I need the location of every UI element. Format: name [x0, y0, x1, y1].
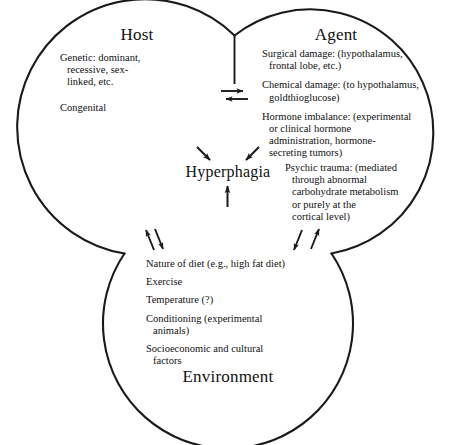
factor-item: Conditioning (experimentalanimals)	[146, 313, 356, 337]
agent-factor-list: Surgical damage: (hypothalamus,frontal l…	[262, 48, 462, 160]
factor-item: Genetic: dominant,recessive, sex-linked,…	[60, 52, 210, 89]
factor-item-line: Exercise	[146, 276, 356, 288]
factor-item-line: cortical level)	[285, 211, 464, 223]
arrow-environment-to-agent	[311, 229, 319, 249]
factor-item-line: linked, etc.	[60, 76, 210, 88]
factor-item: Nature of diet (e.g., high fat diet)	[146, 258, 356, 270]
venn-diagram: Host Agent Environment Hyperphagia Genet…	[0, 0, 464, 445]
factor-item-line: carbohydrate metabolism	[285, 186, 464, 198]
arrow-agent-to-hyperphagia	[246, 147, 259, 160]
factor-item: Congenital	[60, 102, 210, 114]
factor-item: Socioeconomic and culturalfactors	[146, 343, 356, 367]
factor-item-line: Surgical damage: (hypothalamus,	[262, 48, 462, 60]
factor-item-line: through abnormal	[285, 174, 464, 186]
factor-item: Surgical damage: (hypothalamus,frontal l…	[262, 48, 462, 72]
factor-item-line: recessive, sex-	[60, 64, 210, 76]
factor-item-line: Temperature (?)	[146, 294, 356, 306]
factor-item-line: animals)	[146, 325, 356, 337]
factor-item-line: Congenital	[60, 102, 210, 114]
factor-item-line: or clinical hormone	[262, 123, 462, 135]
environment-circle-title: Environment	[128, 368, 328, 385]
arrow-host-to-environment	[146, 230, 154, 250]
factor-item: Hormone imbalance: (experimentalor clini…	[262, 111, 462, 160]
factor-item-line: Genetic: dominant,	[60, 52, 210, 64]
factor-item-line: goldthioglucose)	[262, 92, 462, 104]
factor-item-line: Hormone imbalance: (experimental	[262, 111, 462, 123]
factor-item: Chemical damage: (to hypothalamus,goldth…	[262, 79, 462, 103]
factor-item: Temperature (?)	[146, 294, 356, 306]
environment-factor-list: Nature of diet (e.g., high fat diet)Exer…	[146, 258, 356, 367]
arrow-agent-to-environment	[294, 230, 302, 250]
host-factor-list: Genetic: dominant,recessive, sex-linked,…	[60, 52, 210, 114]
factor-item-line: Psychic trauma: (mediated	[285, 162, 464, 174]
factor-item-line: Socioeconomic and cultural	[146, 343, 356, 355]
factor-item: Exercise	[146, 276, 356, 288]
arrow-host-to-hyperphagia	[197, 147, 210, 160]
factor-item-line: administration, hormone-	[262, 135, 462, 147]
factor-item-line: factors	[146, 355, 356, 367]
agent-circle-title: Agent	[206, 26, 464, 43]
factor-item-line: or purely at the	[285, 199, 464, 211]
arrow-environment-to-host	[155, 229, 163, 249]
factor-item-line: Chemical damage: (to hypothalamus,	[262, 79, 462, 91]
factor-item-line: frontal lobe, etc.)	[262, 60, 462, 72]
factor-item-line: Conditioning (experimental	[146, 313, 356, 325]
agent-psychic-trauma-item: Psychic trauma: (mediatedthrough abnorma…	[285, 162, 464, 223]
factor-item: Psychic trauma: (mediatedthrough abnorma…	[285, 162, 464, 223]
factor-item-line: Nature of diet (e.g., high fat diet)	[146, 258, 356, 270]
factor-item-line: secreting tumors)	[262, 147, 462, 159]
